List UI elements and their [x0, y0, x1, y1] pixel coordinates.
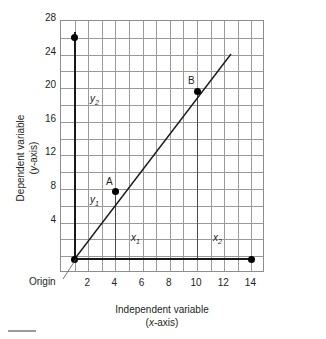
x-axis-title: Independent variable (x-axis) [60, 303, 264, 329]
x-axis-title-line2: (x-axis) [60, 316, 264, 329]
footer-rule [8, 330, 36, 332]
y-axis-title-line1: Dependent variable [14, 73, 27, 243]
x-axis-title-line1: Independent variable [60, 303, 264, 316]
x-axis-title-suffix: -axis) [154, 317, 178, 328]
y-axis-title: Dependent variable (y-axis) [14, 73, 40, 243]
y-axis-title-var: y [28, 166, 39, 171]
chart-figure: y2 y1 x1 x2 A B 28 24 20 16 12 8 4 2 4 6… [0, 0, 326, 339]
origin-leader-line [0, 0, 326, 339]
y-axis-title-paren-open: ( [28, 171, 39, 174]
y-axis-title-line2: (y-axis) [27, 73, 40, 243]
origin-label: Origin [29, 277, 56, 287]
y-axis-title-suffix: -axis) [28, 142, 39, 166]
